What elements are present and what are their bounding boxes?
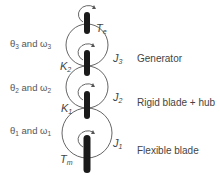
spring-k1-label: K1 [61,103,72,115]
k1-shaft [84,91,90,119]
state-label-3: θ3 and ω3 [10,39,51,51]
generator-label: Generator [137,54,182,64]
flexible-blade-label: Flexible blade [137,146,199,156]
inertia-j2-label: J2 [113,92,122,104]
rigid-blade-hub-label: Rigid blade + hub [137,98,215,108]
arrowhead-icon [91,43,95,47]
inertia-j1-label: J1 [113,138,122,150]
state-label-1: θ1 and ω1 [10,126,51,138]
arrowhead-icon [92,5,96,9]
spring-k2-label: K2 [60,61,71,73]
blade-shaft [84,135,91,173]
torque-te-label: Te [96,23,107,35]
torque-tm-label: Tm [60,154,73,166]
state-label-2: θ2 and ω2 [10,83,51,95]
arrowhead-icon [91,83,95,87]
k2-shaft [84,50,90,76]
generator-shaft [84,12,90,34]
inertia-j3-label: J3 [113,53,122,65]
arrowhead-icon [91,130,95,134]
